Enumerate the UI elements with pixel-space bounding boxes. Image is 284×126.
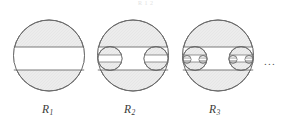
r3-grandchild-right-a-band-fill (229, 58, 237, 60)
r3-grandchild-left-a-band-fill (183, 58, 191, 60)
r2-child-left-band-fill (98, 55, 122, 62)
r3-grandchild-left-b-band-fill (199, 58, 207, 60)
sequence-ellipsis: ... (264, 55, 276, 67)
shape-r3 (183, 20, 254, 91)
figure-label-r1: R1 (42, 103, 53, 115)
label-r2-base: R (124, 103, 131, 115)
fractal-figure: R 1 2 (0, 0, 284, 126)
r3-grandchild-right-b-band-fill (245, 58, 253, 60)
label-r1-base: R (42, 103, 49, 115)
label-r3-base: R (209, 103, 216, 115)
shape-r1 (14, 20, 85, 91)
r1-band-fill (14, 47, 85, 70)
label-r2-subscript: 2 (132, 108, 136, 117)
figure-label-r2: R2 (124, 103, 135, 115)
label-r1-subscript: 1 (50, 108, 54, 117)
shape-r2 (98, 20, 169, 91)
label-r3-subscript: 3 (217, 108, 221, 117)
r2-child-right-band-fill (144, 55, 168, 62)
figure-label-r3: R3 (209, 103, 220, 115)
